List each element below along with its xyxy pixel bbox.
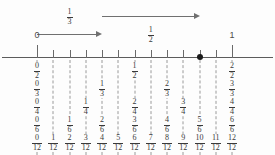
fraction-numerator: 10 <box>195 134 205 143</box>
fraction-denominator: 4 <box>180 107 186 117</box>
fraction: 14 <box>83 98 89 116</box>
axis-tick-2 <box>70 50 71 58</box>
fraction: 23 <box>164 80 170 98</box>
fraction-denominator: 12 <box>130 143 140 153</box>
fraction: 512 <box>113 134 123 152</box>
fraction-numerator: 8 <box>162 134 172 143</box>
fraction-denominator: 12 <box>195 143 205 153</box>
fraction-numerator: 0 <box>34 62 40 71</box>
fraction: 212 <box>65 134 75 152</box>
fraction: 44 <box>229 98 235 116</box>
axis-tick-7 <box>151 50 152 58</box>
fraction: 812 <box>162 134 172 152</box>
fraction: 112 <box>48 134 58 152</box>
fraction: 56 <box>197 116 203 134</box>
axis-tick-1 <box>53 50 54 58</box>
fraction: 33 <box>229 80 235 98</box>
axis-tick-11 <box>216 50 217 58</box>
fraction-cell: 1212 <box>222 134 242 154</box>
fraction-numerator: 1 <box>132 62 138 71</box>
fraction-numerator: 3 <box>180 98 186 107</box>
axis-label-one: 1 <box>225 30 239 41</box>
jump-one-half <box>102 16 195 17</box>
fraction-numerator: 0 <box>34 116 40 125</box>
fraction-numerator: 4 <box>97 134 107 143</box>
fraction: 12 <box>148 26 154 44</box>
fraction-numerator: 9 <box>178 134 188 143</box>
fraction-numerator: 3 <box>229 80 235 89</box>
fraction-numerator: 1 <box>48 134 58 143</box>
fraction: 34 <box>180 98 186 116</box>
fraction-numerator: 2 <box>65 134 75 143</box>
fraction: 24 <box>132 98 138 116</box>
fraction-numerator: 1 <box>148 26 154 35</box>
fraction-denominator: 12 <box>48 143 58 153</box>
fraction-denominator: 2 <box>132 71 138 81</box>
fraction: 1112 <box>211 134 221 152</box>
fraction-numerator: 12 <box>227 134 237 143</box>
fraction: 412 <box>97 134 107 152</box>
fraction: 912 <box>178 134 188 152</box>
fraction-numerator: 2 <box>229 62 235 71</box>
fraction-denominator: 12 <box>97 143 107 153</box>
fraction-denominator: 12 <box>32 143 42 153</box>
axis-tick-4 <box>102 50 103 58</box>
fraction-numerator: 6 <box>229 116 235 125</box>
axis-tick-8 <box>167 50 168 58</box>
fraction: 16 <box>67 116 73 134</box>
fraction-numerator: 5 <box>113 134 123 143</box>
axis-tick-6 <box>135 50 136 58</box>
axis-tick-9 <box>183 50 184 58</box>
fraction-numerator: 1 <box>67 8 73 17</box>
fraction-denominator: 3 <box>99 89 105 99</box>
fraction-numerator: 5 <box>197 116 203 125</box>
fraction-denominator: 12 <box>178 143 188 153</box>
fraction-numerator: 6 <box>130 134 140 143</box>
fraction: 26 <box>99 116 105 134</box>
fraction-numerator: 4 <box>229 98 235 107</box>
fraction: 36 <box>132 116 138 134</box>
fraction-numerator: 1 <box>83 98 89 107</box>
fraction: 712 <box>146 134 156 152</box>
fraction-numerator: 0 <box>32 134 42 143</box>
fraction: 46 <box>164 116 170 134</box>
fraction: 13 <box>99 80 105 98</box>
fraction: 03 <box>34 80 40 98</box>
fraction-denominator: 12 <box>211 143 221 153</box>
fraction-denominator: 3 <box>67 17 73 27</box>
fraction: 612 <box>130 134 140 152</box>
fraction-numerator: 1 <box>67 116 73 125</box>
fraction: 02 <box>34 62 40 80</box>
fraction: 1012 <box>195 134 205 152</box>
fraction-denominator: 4 <box>83 107 89 117</box>
fraction-numerator: 2 <box>132 98 138 107</box>
jump-one-half-label: 12 <box>139 26 163 46</box>
fraction-denominator: 12 <box>162 143 172 153</box>
jump-one-third-arrowhead-icon <box>96 31 102 37</box>
fraction-numerator: 1 <box>99 80 105 89</box>
fraction: 312 <box>81 134 91 152</box>
fraction-numerator: 4 <box>164 116 170 125</box>
fraction: 012 <box>32 134 42 152</box>
axis-label-zero: 0 <box>30 30 44 41</box>
fraction-denominator: 12 <box>65 143 75 153</box>
fraction-numerator: 7 <box>146 134 156 143</box>
fraction-denominator: 2 <box>148 35 154 45</box>
fraction: 12 <box>132 62 138 80</box>
fraction: 13 <box>67 8 73 26</box>
fraction: 04 <box>34 98 40 116</box>
axis-tick-0 <box>37 45 38 58</box>
jump-one-third <box>37 34 97 35</box>
axis-tick-3 <box>86 50 87 58</box>
fraction: 06 <box>34 116 40 134</box>
fraction-numerator: 3 <box>81 134 91 143</box>
fraction: 22 <box>229 62 235 80</box>
fraction-numerator: 11 <box>211 134 221 143</box>
fraction-denominator: 12 <box>81 143 91 153</box>
jump-one-third-label: 13 <box>58 8 82 28</box>
fraction-numerator: 3 <box>132 116 138 125</box>
fraction-denominator: 12 <box>227 143 237 153</box>
fraction-numerator: 2 <box>99 116 105 125</box>
jump-one-half-arrowhead-icon <box>194 13 200 19</box>
fraction-numerator: 2 <box>164 80 170 89</box>
